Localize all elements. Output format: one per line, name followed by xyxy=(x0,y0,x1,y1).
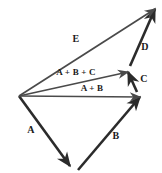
vector-arrow-b xyxy=(78,97,140,170)
vector-label-c: C xyxy=(140,74,147,84)
vector-label-a-plus-b: A + B xyxy=(81,84,104,93)
vector-label-a-plus-b-plus-c: A + B + C xyxy=(56,68,96,77)
vector-arrow-c xyxy=(128,72,137,92)
vector-label-e: E xyxy=(73,34,80,44)
vector-label-a: A xyxy=(27,125,34,135)
vector-label-d: D xyxy=(141,42,148,52)
vector-addition-diagram: A B C D E A + B A + B + C xyxy=(0,0,162,173)
vector-arrow-a-plus-b xyxy=(19,96,140,97)
vector-label-b: B xyxy=(113,131,120,141)
